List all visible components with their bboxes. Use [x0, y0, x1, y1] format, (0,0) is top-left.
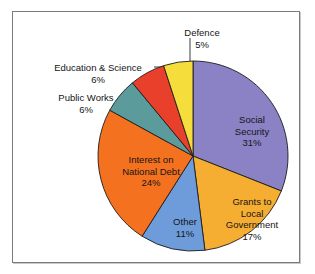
slice-label-grants-value: 17% [209, 231, 295, 243]
slice-label-defence-name: Defence [163, 27, 241, 39]
slice-label-grants-to-local-government: Grants to Local Government 17% [209, 196, 295, 242]
slice-label-social-security-name-line2: Security [221, 126, 283, 138]
chart-panel: Defence 5% Education & Science 6% Public… [12, 11, 300, 263]
slice-label-interest-on-national-debt: Interest on National Debt 24% [105, 154, 197, 189]
slice-label-social-security-value: 31% [221, 137, 283, 149]
slice-label-public-works: Public Works 6% [27, 92, 145, 115]
slice-label-public-works-value: 6% [27, 104, 145, 116]
slice-label-education-science-value: 6% [25, 74, 171, 86]
slice-label-other-value: 11% [161, 228, 209, 240]
slice-label-other-name: Other [161, 216, 209, 228]
slice-label-interest-value: 24% [105, 177, 197, 189]
slice-label-interest-name-line1: Interest on [105, 154, 197, 166]
slice-label-grants-name-line3: Government [209, 219, 295, 231]
slice-label-interest-name-line2: National Debt [105, 166, 197, 178]
slice-label-social-security-name-line1: Social [221, 114, 283, 126]
slice-label-public-works-name: Public Works [27, 92, 145, 104]
slice-label-grants-name-line1: Grants to [209, 196, 295, 208]
slice-label-defence-value: 5% [163, 39, 241, 51]
slice-label-education-science-name: Education & Science [25, 62, 171, 74]
slice-label-other: Other 11% [161, 216, 209, 239]
slice-label-grants-name-line2: Local [209, 208, 295, 220]
slice-label-social-security: Social Security 31% [221, 114, 283, 149]
slice-label-defence: Defence 5% [163, 27, 241, 50]
slice-label-education-science: Education & Science 6% [25, 62, 171, 85]
